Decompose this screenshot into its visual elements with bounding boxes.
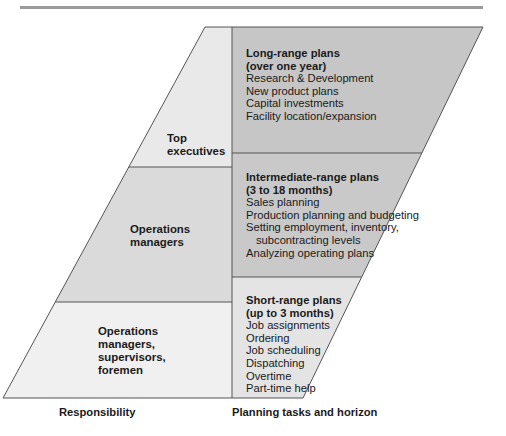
- short-range-item: Overtime: [246, 370, 342, 383]
- ops-line-2: managers: [130, 236, 190, 249]
- short-range-text: Short-range plans (up to 3 months) Job a…: [246, 294, 342, 395]
- planning-axis-label: Planning tasks and horizon: [232, 406, 377, 418]
- intermediate-title-2: (3 to 18 months): [246, 184, 419, 197]
- ops-line-1: Operations: [130, 223, 190, 236]
- long-range-title-2: (over one year): [246, 60, 377, 73]
- intermediate-item: Setting employment, inventory,: [246, 221, 419, 234]
- intermediate-item: Sales planning: [246, 196, 419, 209]
- supervisors-label: Operations managers, supervisors, foreme…: [98, 325, 166, 377]
- short-range-item: Job assignments: [246, 319, 342, 332]
- short-range-item: Part-time help: [246, 382, 342, 395]
- sup-line-3: supervisors,: [98, 351, 166, 364]
- long-range-text: Long-range plans (over one year) Researc…: [246, 47, 377, 123]
- sup-line-2: managers,: [98, 338, 166, 351]
- long-range-item: Research & Development: [246, 72, 377, 85]
- short-range-item: Job scheduling: [246, 344, 342, 357]
- sup-line-1: Operations: [98, 325, 166, 338]
- short-range-title-1: Short-range plans: [246, 294, 342, 307]
- intermediate-title-1: Intermediate-range plans: [246, 171, 419, 184]
- top-exec-line-2: executives: [167, 145, 225, 158]
- intermediate-item: Production planning and budgeting: [246, 209, 419, 222]
- short-range-item: Ordering: [246, 332, 342, 345]
- short-range-item: Dispatching: [246, 357, 342, 370]
- long-range-item: Facility location/expansion: [246, 110, 377, 123]
- operations-managers-label: Operations managers: [130, 223, 190, 249]
- top-exec-line-1: Top: [167, 132, 225, 145]
- intermediate-range-text: Intermediate-range plans (3 to 18 months…: [246, 171, 419, 259]
- long-range-item: New product plans: [246, 85, 377, 98]
- long-range-title-1: Long-range plans: [246, 47, 377, 60]
- long-range-item: Capital investments: [246, 97, 377, 110]
- short-range-title-2: (up to 3 months): [246, 307, 342, 320]
- responsibility-axis-label: Responsibility: [59, 406, 135, 418]
- intermediate-item: Analyzing operating plans: [246, 247, 419, 260]
- sup-line-4: foremen: [98, 364, 166, 377]
- intermediate-item: subcontracting levels: [246, 234, 419, 247]
- top-executives-label: Top executives: [167, 132, 225, 158]
